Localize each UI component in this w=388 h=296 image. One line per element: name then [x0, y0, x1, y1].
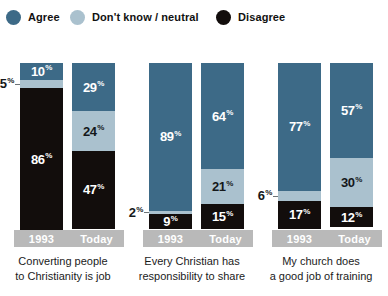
bar-segment[interactable]: 10% [20, 63, 63, 80]
x-axis-tick-1993: 1993 [14, 230, 69, 247]
caption-line: Every Christian has [131, 254, 253, 269]
stacked-bar[interactable]: 57%30%12% [330, 63, 373, 229]
x-axis-tick-today: Today [69, 230, 124, 247]
x-axis-tick-today: Today [327, 230, 382, 247]
x-axis-tick-today: Today [198, 230, 253, 247]
bar-segment[interactable]: 5% [20, 80, 63, 88]
legend-label: Don't know / neutral [92, 11, 199, 23]
segment-value-label: 29% [83, 81, 104, 94]
stacked-bar[interactable]: 64%21%15% [201, 63, 244, 229]
bar-segment[interactable]: 15% [201, 204, 244, 229]
bar-segment[interactable]: 86% [20, 88, 63, 231]
stacked-bar-chart: 10%5%86%29%24%47%1993TodayConverting peo… [0, 34, 388, 296]
segment-value-label: 17% [289, 208, 310, 221]
bar-group: 89%2%9%64%21%15%1993TodayEvery Christian… [131, 34, 253, 296]
group-caption: Converting peopleto Christianity is job [2, 254, 124, 284]
legend-label: Disagree [238, 11, 285, 23]
circle-swatch-icon [70, 10, 85, 25]
group-caption: Every Christian hasresponsibility to sha… [131, 254, 253, 284]
segment-value-label: 21% [212, 180, 233, 193]
group-caption: My church doesa good job of training [260, 254, 382, 284]
x-axis-tick-1993: 1993 [143, 230, 198, 247]
segment-value-label: 57% [341, 104, 362, 117]
caption-line: My church does [260, 254, 382, 269]
bar-group: 77%6%17%57%30%12%1993TodayMy church does… [260, 34, 382, 296]
bars-area: 89%2%9%64%21%15% [131, 34, 253, 230]
circle-swatch-icon [216, 10, 231, 25]
segment-value-label: 86% [31, 153, 52, 166]
chart-legend: Agree Don't know / neutral Disagree [0, 0, 388, 34]
segment-value-label: 5% [0, 77, 14, 90]
segment-value-label: 64% [212, 110, 233, 123]
legend-item-agree: Agree [6, 0, 60, 34]
x-axis-band: 1993Today [272, 230, 382, 247]
legend-item-disagree: Disagree [216, 0, 285, 34]
bar-segment[interactable]: 24% [72, 111, 115, 151]
segment-value-label: 47% [83, 183, 104, 196]
segment-value-label: 89% [160, 130, 181, 143]
caption-line: Converting people [2, 254, 124, 269]
segment-value-label: 2% [129, 206, 143, 219]
legend-label: Agree [28, 11, 60, 23]
stacked-bar[interactable]: 10%5%86% [20, 63, 63, 229]
caption-line: responsibility to share [131, 269, 253, 284]
segment-value-label: 12% [341, 211, 362, 224]
bar-segment[interactable]: 17% [278, 201, 321, 229]
x-axis-band: 1993Today [143, 230, 253, 247]
bar-segment[interactable]: 89% [149, 63, 192, 211]
bar-segment[interactable]: 6% [278, 191, 321, 201]
legend-item-neutral: Don't know / neutral [70, 0, 199, 34]
segment-value-label: 6% [258, 189, 272, 202]
bar-group: 10%5%86%29%24%47%1993TodayConverting peo… [2, 34, 124, 296]
segment-value-label: 24% [83, 125, 104, 138]
bar-segment[interactable]: 64% [201, 63, 244, 169]
bar-segment[interactable]: 29% [72, 63, 115, 111]
bar-segment[interactable]: 77% [278, 63, 321, 191]
segment-value-label: 9% [163, 215, 177, 228]
bars-area: 77%6%17%57%30%12% [260, 34, 382, 230]
caption-line: to Christianity is job [2, 269, 124, 284]
segment-value-label: 30% [341, 176, 362, 189]
bar-segment[interactable]: 12% [330, 207, 373, 227]
stacked-bar[interactable]: 29%24%47% [72, 63, 115, 229]
x-axis-tick-1993: 1993 [272, 230, 327, 247]
bar-segment[interactable]: 9% [149, 214, 192, 229]
segment-value-label: 10% [31, 65, 52, 78]
segment-value-label: 77% [289, 120, 310, 133]
stacked-bar[interactable]: 77%6%17% [278, 63, 321, 229]
stacked-bar[interactable]: 89%2%9% [149, 63, 192, 229]
bar-segment[interactable]: 21% [201, 169, 244, 204]
x-axis-band: 1993Today [14, 230, 124, 247]
bars-area: 10%5%86%29%24%47% [2, 34, 124, 230]
segment-value-label: 15% [212, 210, 233, 223]
caption-line: a good job of training [260, 269, 382, 284]
bar-segment[interactable]: 47% [72, 151, 115, 229]
circle-swatch-icon [6, 10, 21, 25]
bar-segment[interactable]: 30% [330, 158, 373, 208]
bar-segment[interactable]: 57% [330, 63, 373, 158]
